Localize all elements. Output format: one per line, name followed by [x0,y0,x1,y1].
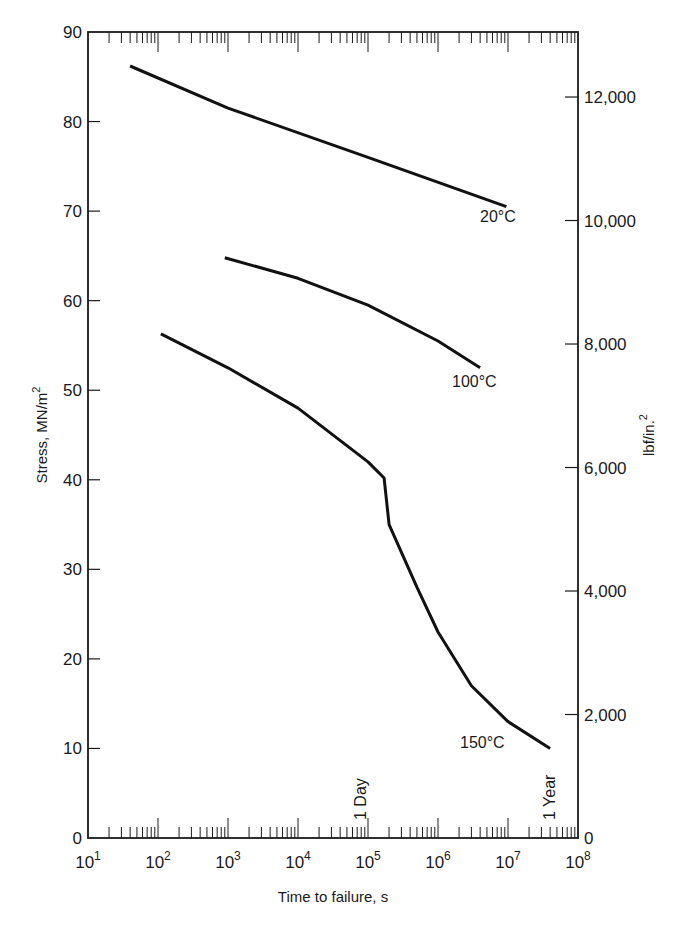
y2-tick-label: 4,000 [584,582,627,601]
curve-150c [161,334,550,749]
y2-tick-label: 8,000 [584,335,627,354]
y-tick-label: 70 [63,202,82,221]
y2-tick-label: 10,000 [584,212,636,231]
y-tick-label: 30 [63,560,82,579]
annotation-1-day: 1 Day [352,778,369,820]
y2-tick-label: 12,000 [584,88,636,107]
y2-axis-title: lbf/in.2 [637,414,657,456]
annotation-1-year: 1 Year [541,774,558,820]
x-tick-label: 103 [215,849,241,872]
x-tick-label: 105 [355,849,381,872]
y-tick-label: 10 [63,739,82,758]
svg-text:Stress, MN/m2: Stress, MN/m2 [30,387,50,484]
curve-20c [130,66,506,207]
creep-rupture-chart: 101102103104105106107108 010203040506070… [0,0,696,928]
y-tick-label: 40 [63,471,82,490]
y-tick-label: 60 [63,292,82,311]
curve-label-100c: 100°C [452,373,497,390]
y-tick-label: 80 [63,113,82,132]
curve-label-150c: 150°C [460,734,505,751]
y-axis-title: Stress, MN/m2 [30,387,50,484]
x-tick-label: 102 [145,849,171,872]
y2-tick-label: 2,000 [584,706,627,725]
x-tick-label: 107 [495,849,521,872]
svg-text:lbf/in.2: lbf/in.2 [637,414,657,456]
y-axis-ticks: 0102030405060708090 [63,23,100,848]
x-tick-label: 106 [425,849,451,872]
y-tick-label: 50 [63,381,82,400]
y2-tick-label: 0 [584,829,593,848]
x-tick-label: 104 [285,849,311,872]
x-axis-ticks: 101102103104105106107108 [75,32,591,872]
x-axis-title: Time to failure, s [278,888,388,905]
curves [130,66,550,748]
x-tick-label: 108 [565,849,591,872]
y-tick-label: 0 [73,829,82,848]
y2-tick-label: 6,000 [584,459,627,478]
y2-axis-ticks: 02,0004,0006,0008,00010,00012,000 [565,88,636,848]
curve-label-20c: 20°C [480,208,516,225]
curve-100c [225,258,480,368]
y-tick-label: 90 [63,23,82,42]
x-tick-label: 101 [75,849,101,872]
y-tick-label: 20 [63,650,82,669]
